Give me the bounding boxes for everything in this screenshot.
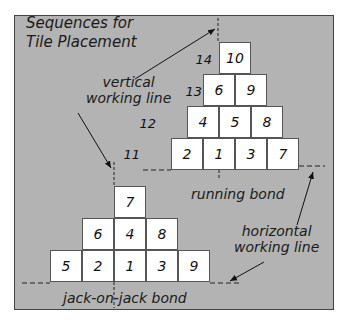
working-lines-overlay <box>0 0 347 323</box>
horizontal-arrow-top <box>297 172 313 225</box>
vertical-arrow-top <box>135 29 215 79</box>
vertical-arrow-bottom <box>78 113 111 168</box>
horizontal-arrow-bottom <box>230 262 264 281</box>
